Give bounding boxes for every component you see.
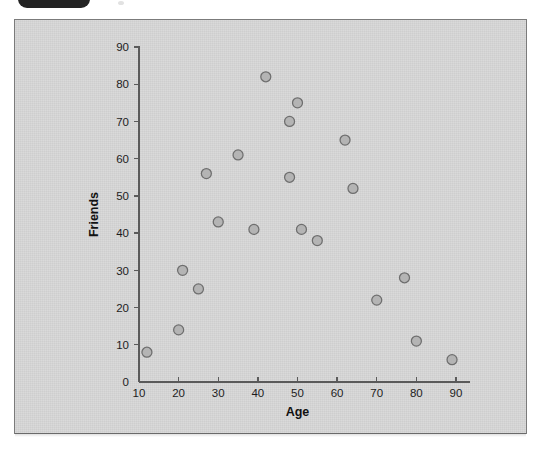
data-point bbox=[233, 150, 243, 160]
data-point bbox=[201, 169, 211, 179]
data-point bbox=[340, 135, 350, 145]
x-tick-label: 40 bbox=[251, 387, 264, 399]
window-tab-badge[interactable] bbox=[18, 0, 90, 8]
data-point bbox=[193, 284, 203, 294]
data-point bbox=[411, 336, 421, 346]
data-point bbox=[142, 347, 152, 357]
x-tick-label: 10 bbox=[133, 387, 146, 399]
data-point bbox=[261, 72, 271, 82]
scatter-plot-svg: 0102030405060708090102030405060708090Age… bbox=[15, 20, 526, 433]
x-tick-label: 50 bbox=[291, 387, 304, 399]
data-point bbox=[372, 295, 382, 305]
data-point bbox=[174, 325, 184, 335]
x-tick-label: 70 bbox=[370, 387, 383, 399]
y-tick-label: 10 bbox=[116, 339, 129, 351]
x-axis-title: Age bbox=[286, 405, 310, 419]
x-tick-label: 80 bbox=[410, 387, 423, 399]
data-point bbox=[399, 273, 409, 283]
data-point bbox=[296, 224, 306, 234]
x-tick-label: 60 bbox=[331, 387, 344, 399]
y-tick-label: 90 bbox=[116, 41, 129, 53]
y-tick-label: 30 bbox=[116, 265, 129, 277]
data-point bbox=[447, 355, 457, 365]
y-tick-label: 20 bbox=[116, 302, 129, 314]
y-axis-title: Friends bbox=[87, 192, 101, 237]
x-tick-label: 20 bbox=[172, 387, 185, 399]
data-point bbox=[178, 265, 188, 275]
y-tick-label: 60 bbox=[116, 153, 129, 165]
y-tick-label: 50 bbox=[116, 190, 129, 202]
data-point bbox=[285, 116, 295, 126]
y-tick-label: 0 bbox=[123, 376, 129, 388]
data-point bbox=[348, 183, 358, 193]
data-point bbox=[213, 217, 223, 227]
scatter-plot-panel: 0102030405060708090102030405060708090Age… bbox=[14, 19, 527, 434]
data-point bbox=[285, 172, 295, 182]
y-tick-label: 80 bbox=[116, 78, 129, 90]
data-point bbox=[312, 236, 322, 246]
data-point bbox=[249, 224, 259, 234]
y-tick-label: 70 bbox=[116, 116, 129, 128]
top-dot-marker bbox=[118, 1, 124, 5]
x-tick-label: 90 bbox=[450, 387, 463, 399]
data-point bbox=[293, 98, 303, 108]
x-tick-label: 30 bbox=[212, 387, 225, 399]
y-tick-label: 40 bbox=[116, 227, 129, 239]
